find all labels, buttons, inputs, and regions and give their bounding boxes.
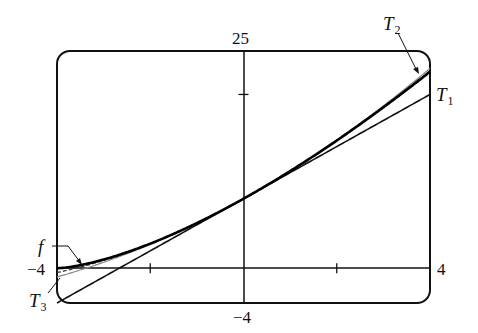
legend-label-f: f (38, 237, 43, 256)
x-min-label: −4 (27, 261, 45, 278)
y-max-label: 25 (232, 30, 249, 47)
legend-label-t3: T3 (29, 291, 47, 313)
chart-plot (0, 0, 478, 333)
x-max-label: 4 (437, 261, 446, 278)
y-min-label: −4 (233, 309, 251, 326)
f-arrowhead (76, 258, 82, 265)
t3-leader-arrow (48, 278, 60, 293)
t2-arrowhead (413, 67, 419, 74)
legend-label-t2: T2 (383, 14, 401, 36)
legend-label-t1: T1 (436, 85, 454, 107)
